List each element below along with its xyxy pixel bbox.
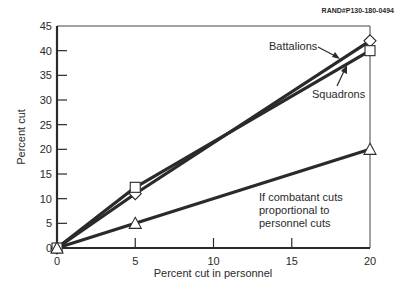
y-tick-label: 35	[40, 69, 52, 81]
svg-text:If combatant cuts: If combatant cuts	[259, 191, 343, 203]
line-chart: RAND#P130-180-0494 051015202530354045051…	[0, 0, 398, 290]
annotation-battalions: Battalions	[269, 40, 340, 59]
triangle-marker	[364, 143, 376, 154]
x-tick-label: 15	[286, 255, 298, 267]
svg-text:Battalions: Battalions	[269, 40, 318, 52]
y-tick-label: 20	[40, 143, 52, 155]
x-tick-label: 0	[54, 255, 60, 267]
y-tick-label: 30	[40, 94, 52, 106]
y-tick-label: 5	[46, 217, 52, 229]
x-tick-label: 20	[364, 255, 376, 267]
square-marker	[365, 46, 375, 56]
svg-text:personnel cuts: personnel cuts	[259, 217, 331, 229]
y-axis-label: Percent cut	[15, 109, 27, 165]
source-label: RAND#P130-180-0494	[322, 7, 394, 14]
annotation-proportional: If combatant cuts proportional to person…	[259, 191, 343, 229]
y-tick-label: 45	[40, 20, 52, 32]
y-tick-label: 25	[40, 119, 52, 131]
y-tick-label: 40	[40, 45, 52, 57]
x-axis-label: Percent cut in personnel	[154, 267, 273, 279]
y-tick-label: 10	[40, 193, 52, 205]
square-marker	[130, 182, 140, 192]
x-tick-label: 10	[207, 255, 219, 267]
svg-text:proportional to: proportional to	[259, 204, 329, 216]
svg-text:Squadrons: Squadrons	[312, 88, 366, 100]
x-tick-label: 5	[132, 255, 138, 267]
y-tick-label: 15	[40, 168, 52, 180]
